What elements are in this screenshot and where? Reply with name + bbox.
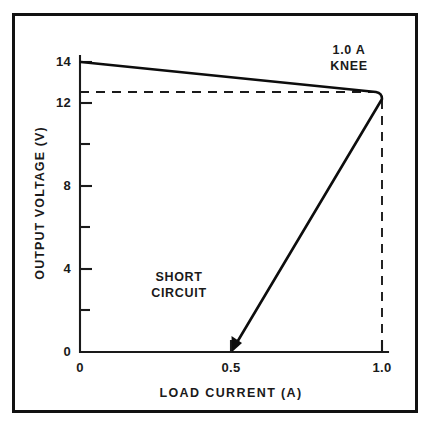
short-circuit-annotation-line-1: SHORT xyxy=(124,269,234,285)
knee-annotation-line-2: KNEE xyxy=(306,58,392,74)
y-tick-label-14: 14 xyxy=(38,54,71,69)
axes-group xyxy=(80,56,388,352)
y-tick-label-12: 12 xyxy=(38,95,71,110)
x-tick-label-1point0: 1.0 xyxy=(360,360,404,375)
knee-annotation: 1.0 A KNEE xyxy=(306,42,392,74)
y-tick-label-0: 0 xyxy=(38,344,71,359)
x-tick-label-0point5: 0.5 xyxy=(209,360,253,375)
short-circuit-annotation-line-2: CIRCUIT xyxy=(124,285,234,301)
regulation-curve xyxy=(81,62,382,344)
short-circuit-annotation: SHORT CIRCUIT xyxy=(124,269,234,301)
y-tick-marks xyxy=(80,62,92,310)
y-axis-title: OUTPUT VOLTAGE (V) xyxy=(33,123,47,283)
figure-container: 14 12 8 4 0 0 0.5 1.0 OUTPUT VOLTAGE (V)… xyxy=(0,0,434,435)
x-tick-label-0: 0 xyxy=(66,360,94,375)
knee-annotation-line-1: 1.0 A xyxy=(306,42,392,58)
x-axis-title: LOAD CURRENT (A) xyxy=(80,386,382,400)
x-tick-marks xyxy=(231,340,382,352)
axis-lines xyxy=(80,56,388,352)
